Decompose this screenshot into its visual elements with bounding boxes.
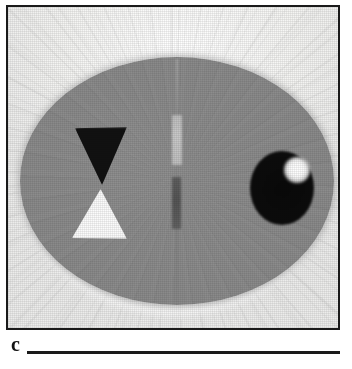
elliptical-phantom xyxy=(20,57,334,305)
figure-panel: c xyxy=(0,0,352,369)
bar-dark-inclusion xyxy=(172,177,181,229)
circle-highlight-inclusion xyxy=(284,157,310,183)
bar-light-inclusion xyxy=(172,115,182,165)
caption-row: c xyxy=(0,329,352,369)
framed-image-area xyxy=(6,5,340,330)
panel-label: c xyxy=(11,334,20,354)
caption-rule xyxy=(27,351,340,354)
